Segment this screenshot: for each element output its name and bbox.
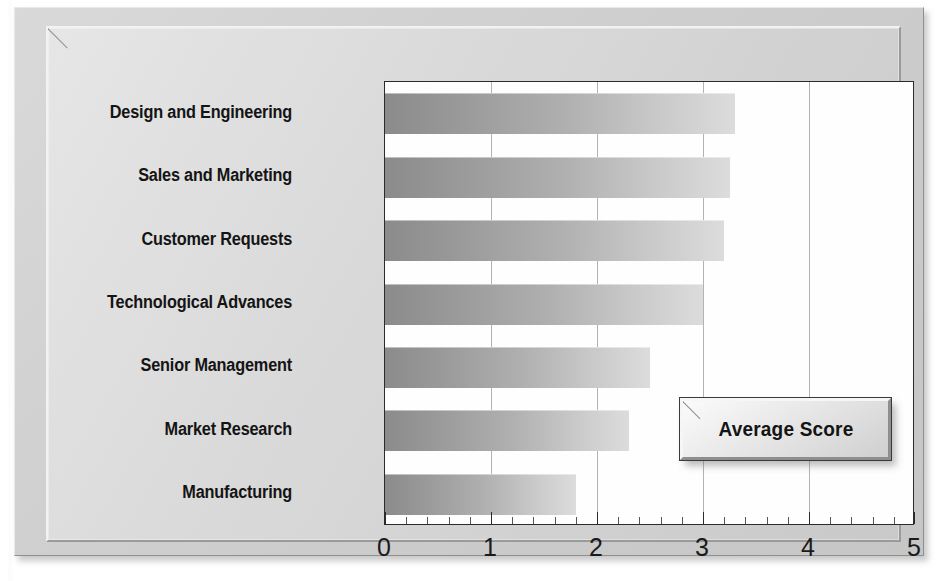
category-label: Manufacturing	[13, 482, 292, 503]
tick-minor	[427, 517, 428, 524]
chart-inner-panel: Design and EngineeringSales and Marketin…	[46, 26, 901, 542]
tick-major	[491, 512, 492, 524]
bar[interactable]	[385, 474, 576, 515]
tick-minor	[618, 517, 619, 524]
tick-minor	[851, 517, 852, 524]
category-label: Customer Requests	[13, 229, 292, 250]
tick-major	[385, 512, 386, 524]
chart-outer-frame: Design and EngineeringSales and Marketin…	[14, 7, 924, 556]
tick-minor	[873, 517, 874, 524]
panel-bevel-corner-icon	[48, 28, 74, 54]
tick-minor	[788, 517, 789, 524]
tick-minor	[449, 517, 450, 524]
tick-minor	[830, 517, 831, 524]
bar[interactable]	[385, 157, 730, 198]
bar[interactable]	[385, 284, 703, 325]
x-axis-tick-label: 0	[364, 533, 404, 562]
tick-minor	[724, 517, 725, 524]
legend-label: Average Score	[718, 418, 853, 441]
x-axis-tick-label: 3	[682, 533, 722, 562]
tick-minor	[661, 517, 662, 524]
category-label: Design and Engineering	[13, 102, 292, 123]
category-label: Senior Management	[13, 355, 292, 376]
bar[interactable]	[385, 347, 650, 388]
legend-bevel-corner-icon	[683, 401, 705, 423]
chart-page: Design and EngineeringSales and Marketin…	[0, 0, 937, 581]
category-label: Market Research	[13, 419, 292, 440]
legend-box[interactable]: Average Score	[680, 398, 891, 460]
tick-major	[809, 512, 810, 524]
x-axis-tick-label: 1	[470, 533, 510, 562]
tick-major	[597, 512, 598, 524]
tick-major	[914, 512, 915, 524]
tick-minor	[576, 517, 577, 524]
bar[interactable]	[385, 220, 724, 261]
tick-minor	[894, 517, 895, 524]
x-axis-tick-label: 2	[576, 533, 616, 562]
tick-minor	[767, 517, 768, 524]
tick-minor	[682, 517, 683, 524]
category-label: Technological Advances	[13, 292, 292, 313]
tick-minor	[639, 517, 640, 524]
tick-minor	[406, 517, 407, 524]
tick-minor	[512, 517, 513, 524]
category-label: Sales and Marketing	[13, 165, 292, 186]
tick-minor	[533, 517, 534, 524]
tick-major	[703, 512, 704, 524]
bar[interactable]	[385, 93, 735, 134]
tick-minor	[470, 517, 471, 524]
x-axis-tick-label: 4	[788, 533, 828, 562]
tick-minor	[745, 517, 746, 524]
bar[interactable]	[385, 410, 629, 451]
tick-minor	[555, 517, 556, 524]
x-axis-tick-label: 5	[894, 533, 934, 562]
